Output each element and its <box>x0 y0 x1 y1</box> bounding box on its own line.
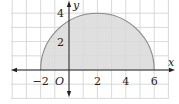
y-axis-up-arrow-icon <box>67 1 71 7</box>
x-tick-label: −2 <box>32 75 48 88</box>
x-tick-label: 4 <box>122 75 129 88</box>
y-tick-label: 2 <box>57 36 64 49</box>
x-tick-label: 6 <box>151 75 158 88</box>
x-axis-label: x <box>168 56 175 69</box>
x-tick-label: 2 <box>94 75 101 88</box>
origin-label: O <box>55 75 64 88</box>
y-axis-down-arrow-icon <box>67 91 71 97</box>
semicircle-graph: −224624Oxy <box>0 0 179 104</box>
y-tick-label: 4 <box>57 7 64 20</box>
y-axis-label: y <box>72 0 80 12</box>
